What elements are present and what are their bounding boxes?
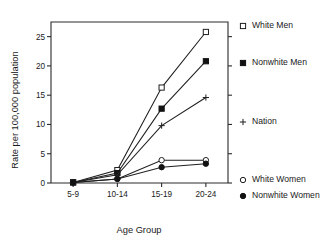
legend-item-nonwhite-women: Nonwhite Women [240, 190, 320, 200]
plot-frame [51, 22, 228, 183]
marker-open-circle [159, 157, 164, 162]
x-axis-title: Age Group [117, 225, 162, 235]
marker-filled-square [159, 106, 164, 111]
marker-open-square [203, 29, 208, 34]
marker-open-square [240, 23, 245, 28]
marker-filled-circle [159, 164, 164, 169]
legend-item-white-women: White Women [240, 174, 306, 184]
y-tick-label: 10 [36, 120, 46, 129]
marker-filled-circle [240, 193, 245, 198]
marker-filled-square [203, 59, 208, 64]
series-white-men [71, 29, 209, 185]
legend-label: Nonwhite Women [252, 190, 320, 200]
marker-filled-square [240, 60, 245, 65]
y-axis: 0510152025 [36, 33, 51, 188]
marker-open-circle [240, 177, 245, 182]
y-tick-label: 15 [36, 91, 46, 100]
x-tick-label: 10-14 [107, 190, 128, 199]
right-axis-ticks [228, 37, 232, 183]
marker-filled-circle [70, 180, 75, 185]
marker-filled-circle [203, 161, 208, 166]
marker-filled-circle [115, 176, 120, 181]
chart-figure: 0510152025 5-910-1415-1920-24 Age Group … [0, 0, 330, 241]
x-tick-label: 5-9 [67, 190, 79, 199]
legend-label: White Men [252, 20, 293, 30]
x-axis: 5-910-1415-1920-24 [67, 183, 217, 199]
legend-item-nation: Nation [240, 116, 277, 126]
legend-item-white-men: White Men [240, 20, 293, 30]
y-tick-label: 0 [40, 179, 45, 188]
chart-legend: White MenNonwhite MenNationWhite WomenNo… [240, 20, 320, 200]
y-tick-label: 5 [40, 150, 45, 159]
x-tick-label: 15-19 [151, 190, 172, 199]
legend-label: White Women [252, 174, 306, 184]
data-series-group [70, 29, 209, 185]
marker-open-square [159, 85, 164, 90]
series-polyline [73, 61, 206, 182]
legend-label: Nonwhite Men [252, 57, 307, 67]
line-chart: 0510152025 5-910-1415-1920-24 Age Group … [0, 0, 330, 241]
x-tick-label: 20-24 [195, 190, 216, 199]
y-tick-label: 20 [36, 62, 46, 71]
series-nonwhite-women [70, 161, 208, 185]
legend-label: Nation [252, 116, 277, 126]
series-polyline [73, 164, 206, 183]
legend-item-nonwhite-men: Nonwhite Men [240, 57, 307, 67]
series-nonwhite-men [71, 59, 209, 185]
y-tick-label: 25 [36, 33, 46, 42]
y-axis-title: Rate per 100,000 population [10, 51, 20, 168]
